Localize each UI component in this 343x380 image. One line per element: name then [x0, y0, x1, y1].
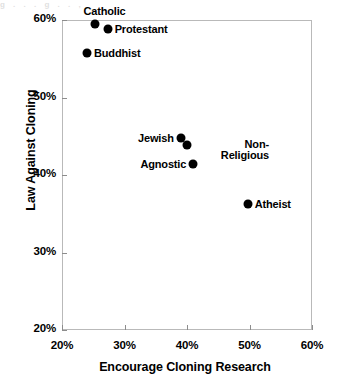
x-axis-title: Encourage Cloning Research [40, 360, 330, 374]
plot-area [62, 20, 312, 330]
y-tick-mark [62, 175, 67, 176]
data-point [183, 140, 192, 149]
data-point [103, 25, 112, 34]
y-tick-mark [62, 330, 67, 331]
data-point-label: Buddhist [94, 48, 140, 60]
y-tick-label: 60% [10, 12, 56, 24]
data-point [189, 160, 198, 169]
y-tick-label: 40% [10, 167, 56, 179]
x-tick-label: 40% [163, 339, 211, 351]
x-tick-label: 50% [226, 339, 274, 351]
y-axis-title: Law Against Cloning [24, 35, 38, 265]
y-tick-mark [62, 253, 67, 254]
scatter-chart: Law Against Cloning Encourage Cloning Re… [0, 0, 343, 380]
data-point-label: Catholic [83, 5, 125, 17]
data-point [90, 19, 99, 28]
y-tick-label: 50% [10, 90, 56, 102]
data-point-label: Non-Religious [207, 138, 269, 161]
x-tick-label: 20% [38, 339, 86, 351]
x-tick-label: 30% [101, 339, 149, 351]
data-point-label: Atheist [255, 199, 291, 211]
x-tick-mark [250, 325, 251, 330]
data-point-label: Jewish [138, 133, 174, 145]
x-tick-mark [125, 325, 126, 330]
x-tick-mark [62, 325, 63, 330]
data-point-label: Agnostic [140, 159, 186, 171]
data-point [243, 199, 252, 208]
x-tick-mark [187, 325, 188, 330]
x-tick-label: 60% [288, 339, 336, 351]
x-tick-mark [312, 325, 313, 330]
y-tick-label: 20% [10, 322, 56, 334]
y-tick-mark [62, 20, 67, 21]
data-point [83, 48, 92, 57]
y-tick-label: 30% [10, 245, 56, 257]
y-tick-mark [62, 98, 67, 99]
data-point-label: Protestant [115, 25, 168, 37]
